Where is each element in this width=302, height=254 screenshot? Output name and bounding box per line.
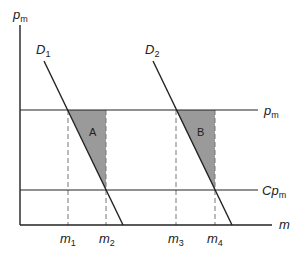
tick-m4: m4 [207, 231, 223, 248]
d1-label: D1 [36, 42, 50, 59]
demand-curve-d1 [44, 61, 123, 225]
x-axis-label: m [279, 217, 290, 232]
area-b-label: B [197, 126, 204, 138]
tick-m2: m2 [99, 231, 115, 248]
cpm-line-label: Cpm [262, 183, 286, 200]
area-a-label: A [89, 126, 97, 138]
y-axis-label: pm [12, 7, 28, 24]
demand-curve-d2 [153, 61, 232, 225]
diagram-canvas: pm m pm Cpm D1 D2 A B m1 m2 m3 m4 [0, 0, 302, 254]
tick-m3: m3 [168, 231, 184, 248]
d2-label: D2 [145, 42, 159, 59]
pm-line-label: pm [263, 103, 279, 120]
tick-m1: m1 [60, 231, 76, 248]
